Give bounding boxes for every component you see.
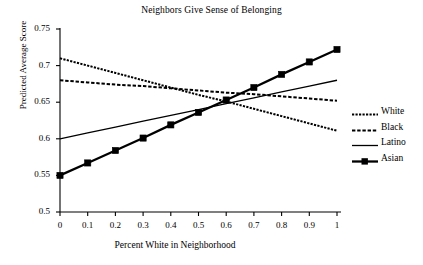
data-point-asian [279,71,285,77]
x-tick-label: 0.9 [299,220,319,230]
x-tick-label: 0.3 [133,220,153,230]
x-tick-label: 0.2 [105,220,125,230]
y-tick-label: 0.5 [20,206,50,216]
y-tick-label: 0.6 [20,133,50,143]
legend-label: Asian [381,153,403,164]
x-tick-label: 0.7 [244,220,264,230]
x-tick-label: 0.6 [216,220,236,230]
y-tick-label: 0.65 [20,96,50,106]
data-point-asian [334,46,340,52]
data-point-asian [57,172,63,178]
legend-label: White [381,106,404,117]
legend-label: Latino [381,137,406,148]
legend-item-asian[interactable]: Asian [352,151,406,167]
chart-container: Neighbors Give Sense of Belonging Predic… [0,0,423,265]
legend-item-latino[interactable]: Latino [352,135,406,151]
y-tick-label: 0.75 [20,23,50,33]
y-tick-label: 0.7 [20,60,50,70]
x-tick-label: 0.8 [272,220,292,230]
legend-swatch-icon [352,106,378,117]
data-point-asian [223,97,229,103]
x-tick-label: 0.1 [78,220,98,230]
data-point-asian [195,109,201,115]
y-tick-label: 0.55 [20,169,50,179]
x-tick-label: 0.4 [161,220,181,230]
x-tick-label: 1 [327,220,347,230]
series-line-black [60,80,337,100]
x-tick-label: 0 [50,220,70,230]
legend-item-white[interactable]: White [352,104,406,120]
legend-swatch-icon [352,122,378,133]
chart-legend: WhiteBlackLatinoAsian [352,104,406,166]
legend-label: Black [381,122,403,133]
legend-item-black[interactable]: Black [352,120,406,136]
x-tick-label: 0.5 [189,220,209,230]
data-point-asian [168,122,174,128]
data-point-asian [251,84,257,90]
data-point-asian [306,59,312,65]
data-point-asian [112,147,118,153]
legend-swatch-icon [352,137,378,148]
legend-swatch-icon [352,153,378,164]
data-point-asian [140,135,146,141]
data-point-asian [85,160,91,166]
